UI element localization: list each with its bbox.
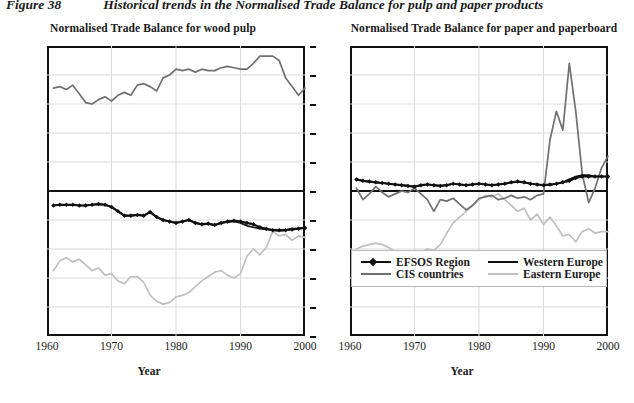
plot-lines-wood-pulp bbox=[47, 46, 305, 336]
x-tick-label: 1960 bbox=[36, 340, 59, 352]
legend-label-western-europe: Western Europe bbox=[523, 256, 603, 268]
x-tick-label: 1970 bbox=[403, 340, 426, 352]
legend-label-eastern-europe: Eastern Europe bbox=[523, 268, 600, 280]
y-tick-mark bbox=[310, 133, 316, 135]
x-tick-label: 1990 bbox=[532, 340, 555, 352]
chart-legend: EFSOS Region Western Europe CIS countrie… bbox=[351, 250, 607, 287]
y-tick-mark bbox=[310, 336, 316, 338]
y-tick-mark bbox=[310, 220, 316, 222]
plot-area-wood-pulp bbox=[47, 46, 305, 336]
legend-swatch-efsos-region-icon bbox=[361, 256, 391, 268]
x-tick-label: 1980 bbox=[468, 340, 491, 352]
legend-item-western-europe[interactable]: Western Europe bbox=[479, 256, 606, 268]
legend-label-efsos-region: EFSOS Region bbox=[396, 256, 470, 268]
y-tick-mark bbox=[310, 162, 316, 164]
x-tick-label: 2000 bbox=[597, 340, 620, 352]
legend-item-eastern-europe[interactable]: Eastern Europe bbox=[479, 268, 606, 280]
legend-item-efsos-region[interactable]: EFSOS Region bbox=[352, 256, 479, 268]
plot-lines-paper-paperboard bbox=[350, 46, 608, 336]
y-tick-mark bbox=[310, 278, 316, 280]
chart-panel-wood-pulp: Normalised Trade Balance for wood pulp 1… bbox=[0, 0, 318, 403]
plot-area-paper-paperboard bbox=[350, 46, 608, 336]
y-tick-mark bbox=[310, 249, 316, 251]
y-tick-mark bbox=[310, 46, 316, 48]
y-tick-mark bbox=[310, 307, 316, 309]
legend-row: CIS countries Eastern Europe bbox=[352, 268, 606, 280]
legend-item-cis-countries[interactable]: CIS countries bbox=[352, 268, 479, 280]
chart-panel-paper-paperboard: Normalised Trade Balance for paper and p… bbox=[318, 0, 634, 403]
chart-title-paper-paperboard: Normalised Trade Balance for paper and p… bbox=[326, 22, 634, 34]
x-tick-label: 2000 bbox=[294, 340, 317, 352]
x-axis-title-wood-pulp: Year bbox=[0, 365, 308, 377]
chart-title-wood-pulp: Normalised Trade Balance for wood pulp bbox=[0, 22, 312, 34]
y-tick-mark bbox=[310, 104, 316, 106]
y-axis-labels-paper-paperboard bbox=[272, 46, 316, 336]
x-axis-labels-paper-paperboard: 19601970198019902000 bbox=[350, 340, 608, 360]
x-axis-labels-wood-pulp: 19601970198019902000 bbox=[47, 340, 305, 360]
x-tick-label: 1980 bbox=[165, 340, 188, 352]
legend-row: EFSOS Region Western Europe bbox=[352, 256, 606, 268]
y-tick-mark bbox=[310, 191, 316, 193]
x-axis-title-paper-paperboard: Year bbox=[304, 365, 620, 377]
legend-swatch-eastern-europe-icon bbox=[488, 268, 518, 280]
x-tick-label: 1990 bbox=[229, 340, 252, 352]
y-tick-mark bbox=[310, 75, 316, 77]
x-tick-label: 1960 bbox=[339, 340, 362, 352]
legend-label-cis-countries: CIS countries bbox=[396, 268, 463, 280]
legend-swatch-western-europe-icon bbox=[488, 256, 518, 268]
x-tick-label: 1970 bbox=[100, 340, 123, 352]
legend-swatch-cis-countries-icon bbox=[361, 268, 391, 280]
